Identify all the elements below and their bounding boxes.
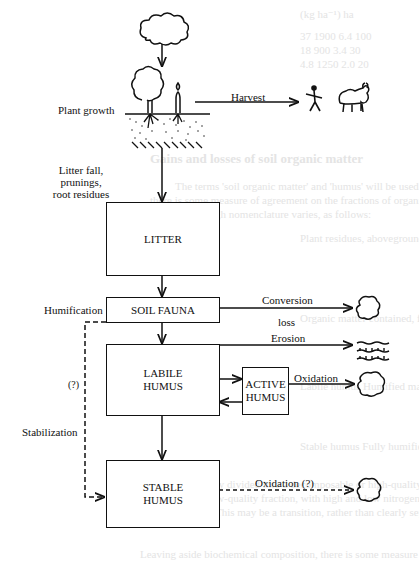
cloud-icon [140,13,188,45]
label-uncertain-mark: (?) [68,379,79,391]
label-litter-input: Litter fall, prunings, root residues [43,164,119,200]
cloud-icon [357,478,381,501]
label-loss: loss [278,316,295,328]
livestock-icon [339,83,369,112]
cloud-icon [358,372,385,396]
label-oxidation: Oxidation [294,372,338,384]
label-oxidation-uncertain: Oxidation (?) [255,477,314,489]
label-plant-growth: Plant growth [58,104,115,116]
cloud-icon [356,296,379,319]
erosion-icon [357,342,389,360]
box-labile-humus: LABILE HUMUS [106,344,220,416]
box-stable-humus: STABLE HUMUS [106,460,220,528]
plant-icon [176,83,180,113]
label-conversion: Conversion [262,294,313,306]
tree-icon [132,67,164,114]
person-icon [306,86,322,111]
soil-icon [125,114,210,148]
label-humification: Humification [44,304,103,316]
label-harvest: Harvest [231,91,265,103]
label-stabilization: Stabilization [22,426,78,438]
box-litter: LITTER [106,202,220,276]
box-soil-fauna: SOIL FAUNA [106,297,220,323]
label-erosion: Erosion [271,332,305,344]
box-active-humus: ACTIVE HUMUS [242,367,289,415]
